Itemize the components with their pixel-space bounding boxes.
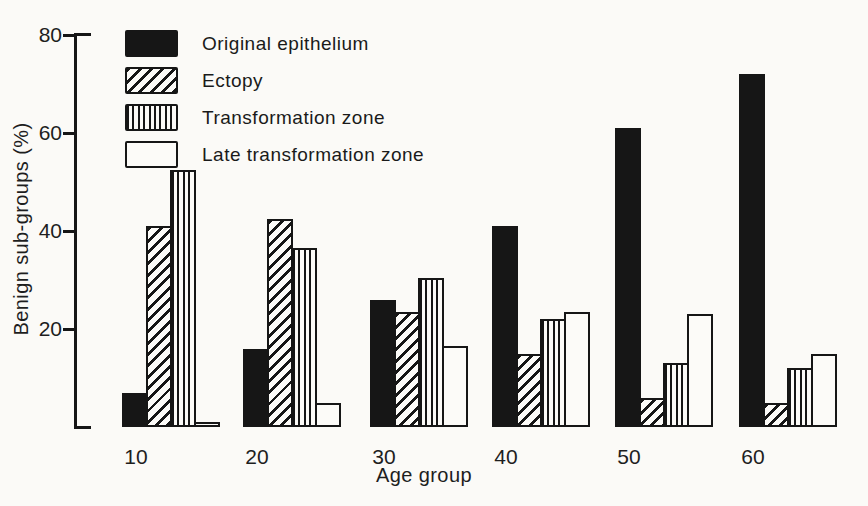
bar-transformation-zone-10 xyxy=(170,170,196,427)
legend-item-transformation-zone: Transformation zone xyxy=(125,104,424,131)
bar-ectopy-20 xyxy=(267,219,293,427)
legend-item-ectopy: Ectopy xyxy=(125,67,424,94)
bar-late-transformation-zone-20 xyxy=(315,403,341,428)
legend: Original epitheliumEctopyTransformation … xyxy=(125,30,424,178)
bar-ectopy-30 xyxy=(394,312,420,427)
legend-item-original-epithelium: Original epithelium xyxy=(125,30,424,57)
bar-original-epithelium-50 xyxy=(615,128,641,427)
y-axis-line xyxy=(74,33,77,429)
bar-ectopy-40 xyxy=(516,354,542,428)
bar-late-transformation-zone-30 xyxy=(442,346,468,427)
bar-original-epithelium-60 xyxy=(739,74,765,427)
bar-late-transformation-zone-10 xyxy=(194,422,220,427)
bar-original-epithelium-40 xyxy=(492,226,518,427)
y-axis-tick-label: 40 xyxy=(26,218,62,244)
x-axis-foot xyxy=(74,426,91,429)
bar-ectopy-60 xyxy=(763,403,789,428)
x-axis-tick-label: 60 xyxy=(741,446,764,468)
bar-transformation-zone-50 xyxy=(663,363,689,427)
y-axis-tick-label: 20 xyxy=(26,316,62,342)
y-axis-tick xyxy=(63,132,74,135)
bar-original-epithelium-10 xyxy=(122,393,148,427)
legend-label: Transformation zone xyxy=(202,107,385,129)
bar-late-transformation-zone-50 xyxy=(687,314,713,427)
y-axis-tick xyxy=(63,230,74,233)
bar-transformation-zone-30 xyxy=(418,278,444,427)
bar-late-transformation-zone-60 xyxy=(811,354,837,428)
bar-ectopy-10 xyxy=(146,226,172,427)
legend-label: Ectopy xyxy=(202,70,263,92)
bar-transformation-zone-40 xyxy=(540,319,566,427)
x-axis-title: Age group xyxy=(344,464,504,487)
y-axis-top-hook xyxy=(74,33,91,36)
x-axis-tick-label: 20 xyxy=(245,446,268,468)
legend-label: Late transformation zone xyxy=(202,144,424,166)
bar-original-epithelium-30 xyxy=(370,300,396,427)
y-axis-tick xyxy=(63,328,74,331)
legend-item-late-transformation-zone: Late transformation zone xyxy=(125,141,424,168)
bar-original-epithelium-20 xyxy=(243,349,269,427)
figure: Benign sub-groups (%) 204060801020304050… xyxy=(0,0,868,506)
bar-ectopy-50 xyxy=(639,398,665,427)
y-axis-tick-label: 60 xyxy=(26,120,62,146)
legend-swatch-open-icon xyxy=(125,141,178,168)
legend-swatch-solid-icon xyxy=(125,30,178,57)
legend-swatch-vertical-lines-icon xyxy=(125,104,178,131)
bar-transformation-zone-20 xyxy=(291,248,317,427)
y-axis-tick-label: 80 xyxy=(26,22,62,48)
x-axis-tick-label: 50 xyxy=(617,446,640,468)
bar-late-transformation-zone-40 xyxy=(564,312,590,427)
bar-transformation-zone-60 xyxy=(787,368,813,427)
x-axis-tick-label: 10 xyxy=(124,446,147,468)
legend-label: Original epithelium xyxy=(202,33,369,55)
y-axis-tick xyxy=(63,34,74,37)
legend-swatch-diagonal-hatch-icon xyxy=(125,67,178,94)
